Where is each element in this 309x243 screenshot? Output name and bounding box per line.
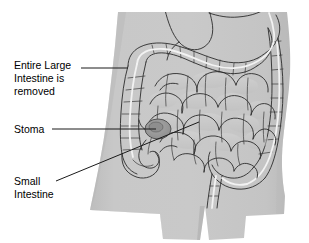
label-large-intestine: Entire Large Intestine is removed	[14, 59, 71, 97]
label-small-intestine-line-2: Intestine	[14, 188, 54, 200]
label-large-intestine-line-3: removed	[14, 85, 55, 97]
label-small-intestine: Small Intestine	[14, 175, 54, 200]
illustration-canvas: Entire Large Intestine is removed Stoma …	[0, 0, 309, 243]
label-stoma: Stoma	[14, 123, 45, 135]
label-small-intestine-line-1: Small	[14, 175, 40, 187]
label-large-intestine-line-2: Intestine is	[14, 72, 64, 84]
label-stoma-line-1: Stoma	[14, 123, 45, 135]
anatomical-illustration: Entire Large Intestine is removed Stoma …	[0, 0, 309, 243]
label-large-intestine-line-1: Entire Large	[14, 59, 71, 71]
